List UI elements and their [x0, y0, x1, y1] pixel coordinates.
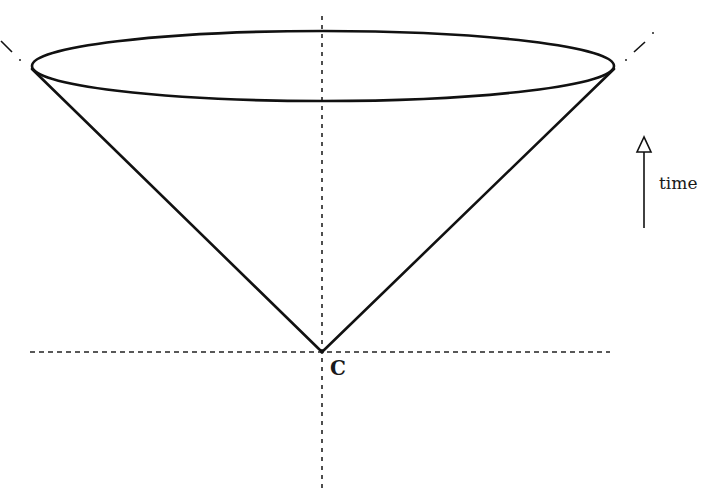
time-axis-label: time [659, 173, 697, 193]
cone-right-extension-dash [634, 42, 645, 52]
cone-left-extension-dash [1, 41, 12, 52]
apex-point [320, 350, 324, 354]
cone-right-extension-dot-far [652, 32, 654, 34]
cone-left-extension-dot [19, 59, 21, 61]
cone-right-edge [322, 69, 614, 352]
time-arrow-head-icon [637, 137, 651, 152]
cone-left-edge [32, 69, 322, 352]
cone-top-ellipse [32, 31, 614, 101]
apex-label: C [330, 356, 346, 380]
cone-right-extension-dot-near [625, 59, 627, 61]
light-cone-diagram [0, 0, 707, 502]
